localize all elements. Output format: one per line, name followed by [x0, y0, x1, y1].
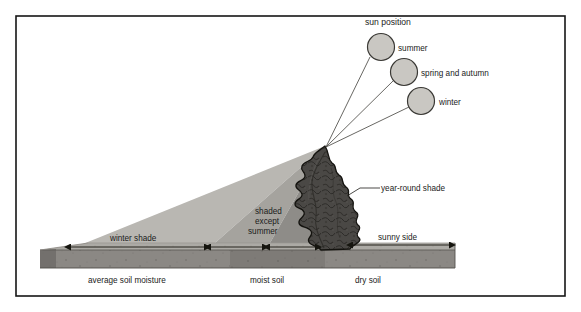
soil-band-dry-soil — [325, 250, 455, 268]
label-year-round-shade: year-round shade — [381, 184, 446, 193]
sun-label-summer: summer — [398, 44, 428, 53]
sun-circle-summer — [368, 34, 395, 61]
sun-circle-spring-autumn — [391, 59, 418, 86]
label-winter-shade: winter shade — [109, 234, 157, 243]
label-sunny-side: sunny side — [378, 233, 418, 242]
label-moist-soil: moist soil — [250, 276, 284, 285]
label-shaded-except-summer-line-3: summer — [248, 227, 278, 236]
label-shaded-except-summer-line-1: shaded — [255, 207, 282, 216]
label-average-soil-moisture: average soil moisture — [88, 276, 166, 285]
label-dry-soil: dry soil — [355, 276, 381, 285]
ground-left-edge — [40, 249, 56, 268]
sun-position-title: sun position — [365, 17, 411, 27]
soil-band-moist-soil — [230, 250, 325, 268]
sun-circle-winter — [408, 88, 435, 115]
sun-label-spring-and-autumn: spring and autumn — [421, 69, 489, 78]
sun-shade-diagram: sun position summer spring and autumn wi… — [0, 0, 581, 312]
label-shaded-except-summer-line-2: except — [255, 217, 280, 226]
diagram-canvas: sun position summer spring and autumn wi… — [0, 0, 581, 312]
soil-band-average-soil-moisture — [40, 250, 230, 268]
sun-label-winter: winter — [438, 98, 461, 107]
